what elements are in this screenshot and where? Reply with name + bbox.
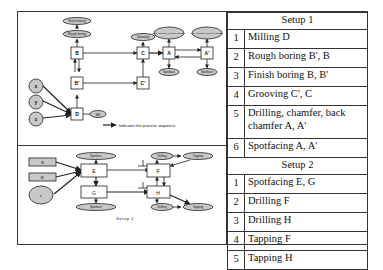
table-row: 1 Spotfacing E, G xyxy=(228,175,368,194)
row-number: 3 xyxy=(228,68,245,87)
table-row: 5 Tapping H xyxy=(228,251,368,270)
spotface-label-1: Spotface xyxy=(163,70,175,74)
rough-boring-label: Rough boring xyxy=(68,32,86,36)
node-b: B xyxy=(75,50,79,56)
setup2-caption: Setup 2 xyxy=(116,216,134,221)
table-row: 2 Drilling F xyxy=(228,194,368,213)
node-h: H xyxy=(156,190,160,196)
row-number: 2 xyxy=(228,49,245,68)
row-number: 4 xyxy=(228,232,245,251)
operation-cell: Grooving C', C xyxy=(245,87,368,106)
table-row: 4 Tapping F xyxy=(228,232,368,251)
tapping-top-label: Tapping xyxy=(193,154,204,158)
spotface-label-2: Spotface xyxy=(201,70,213,74)
operation-cell: Drilling F xyxy=(245,194,368,213)
operation-cell: Spotfacing E, G xyxy=(245,175,368,194)
table-row: 1 Milling D xyxy=(228,30,368,49)
node-d: D xyxy=(75,111,79,117)
drilling-top-label: Drilling xyxy=(157,154,167,158)
finish-boring-label: Finish boring xyxy=(68,19,86,23)
row-number: 4 xyxy=(228,87,245,106)
setup2-diagram: B B' z E G F H Spotface Spotface Drillin… xyxy=(18,146,226,245)
node-c: C xyxy=(141,50,145,56)
table-row: 4 Grooving C', C xyxy=(228,87,368,106)
row-number: 6 xyxy=(228,139,245,158)
setup2-header-row: Setup 2 xyxy=(228,158,368,175)
node-a-prime: A' xyxy=(205,50,210,56)
tapping-bottom-label: Tapping xyxy=(193,205,204,209)
operation-cell: Drilling, chamfer, back chamfer A, A' xyxy=(245,106,368,139)
table-row: 2 Rough boring B', B xyxy=(228,49,368,68)
setup1-diagram-svg: Finish boring Rough boring Grooving Dril… xyxy=(18,12,227,146)
node-b: B xyxy=(41,160,44,165)
node-f: F xyxy=(156,168,159,174)
operation-cell: Finish boring B, B' xyxy=(245,68,368,87)
operation-cell: Milling D xyxy=(245,30,368,49)
setup1-header: Setup 1 xyxy=(228,13,368,30)
drill-chamfer-label-1: Drill, chamfer & back chamfer xyxy=(153,32,186,35)
table-row: 3 Drilling H xyxy=(228,213,368,232)
node-z: z xyxy=(40,193,42,198)
mill-label: Mill xyxy=(96,113,101,117)
node-x: x xyxy=(35,83,38,89)
spotface-top-label: Spotface xyxy=(90,154,102,158)
row-number: 5 xyxy=(228,251,245,270)
node-b-prime: B' xyxy=(41,175,45,180)
spotface-bottom-label: Spotface xyxy=(90,205,102,209)
grooving-label: Grooving xyxy=(137,35,150,39)
row-number: 3 xyxy=(228,213,245,232)
operation-cell: Tapping H xyxy=(245,251,368,270)
drilling-bottom-label: Drilling xyxy=(157,205,167,209)
setup1-header-row: Setup 1 xyxy=(228,13,368,30)
operation-cell: Rough boring B', B xyxy=(245,49,368,68)
table-row: 5 Drilling, chamfer, back chamfer A, A' xyxy=(228,106,368,139)
row-number: 1 xyxy=(228,175,245,194)
setup2-diagram-svg: B B' z E G F H Spotface Spotface Drillin… xyxy=(18,146,227,245)
diagram-panel: Finish boring Rough boring Grooving Dril… xyxy=(18,12,227,244)
setup1-diagram: Finish boring Rough boring Grooving Dril… xyxy=(18,12,226,146)
node-y: y xyxy=(35,99,38,105)
table-row: 6 Spotfacing A, A' xyxy=(228,139,368,158)
row-number: 2 xyxy=(228,194,245,213)
operations-table: Setup 1 1 Milling D 2 Rough boring B', B… xyxy=(227,12,368,270)
setup2-header: Setup 2 xyxy=(228,158,368,175)
legend-text: Indicates the process sequence xyxy=(119,123,176,128)
operation-cell: Spotfacing A, A' xyxy=(245,139,368,158)
node-c-prime: C' xyxy=(141,80,146,86)
operation-cell: Drilling H xyxy=(245,213,368,232)
node-b-prime: B' xyxy=(75,80,80,86)
row-number: 5 xyxy=(228,106,245,139)
row-number: 1 xyxy=(228,30,245,49)
table-row: 3 Finish boring B, B' xyxy=(228,68,368,87)
node-a: A xyxy=(167,50,171,56)
figure-frame: Finish boring Rough boring Grooving Dril… xyxy=(17,11,368,245)
operation-cell: Tapping F xyxy=(245,232,368,251)
node-g: G xyxy=(92,190,96,196)
drill-chamfer-label-2: Drill, chamfer & back chamfer xyxy=(191,32,224,35)
